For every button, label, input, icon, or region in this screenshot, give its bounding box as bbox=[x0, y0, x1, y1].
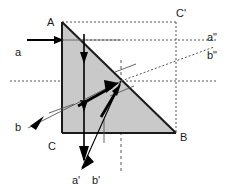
ray-b-incoming-arrowhead bbox=[30, 116, 44, 130]
label-ray-b-prime: b' bbox=[92, 174, 100, 186]
tick-mark-hypotenuse-upper bbox=[115, 64, 136, 72]
label-ray-a-double-prime: a" bbox=[207, 31, 217, 43]
label-ray-b-in: b bbox=[15, 121, 21, 133]
label-ray-a-in: a bbox=[15, 46, 22, 58]
prism-ray-diagram: A B C C' a b a' b' a" b" bbox=[0, 0, 229, 189]
label-vertex-c-prime: C' bbox=[176, 7, 186, 19]
label-vertex-a: A bbox=[47, 16, 55, 28]
diagram-canvas: A B C C' a b a' b' a" b" bbox=[0, 0, 229, 189]
label-ray-b-double-prime: b" bbox=[207, 49, 217, 61]
label-vertex-c: C bbox=[48, 140, 56, 152]
label-ray-a-prime: a' bbox=[72, 174, 80, 186]
label-vertex-b: B bbox=[180, 131, 187, 143]
